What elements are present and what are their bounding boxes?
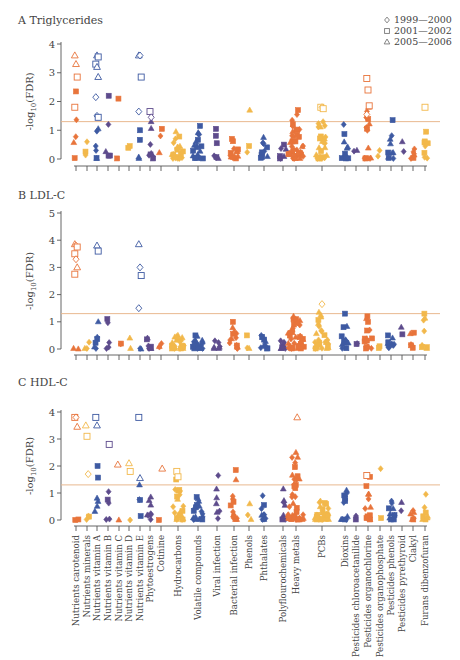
nonsignificant-point-triangle [399,499,405,504]
category-label: Nutrients vitamin B [103,535,113,621]
nonsignificant-point-square [386,333,391,338]
nonsignificant-point-square [93,340,98,345]
nonsignificant-point-diamond [107,516,112,522]
nonsignificant-point-diamond [378,466,383,472]
significant-point-square [72,251,78,257]
nonsignificant-point-triangle [265,153,271,158]
nonsignificant-point-square [73,89,78,94]
nonsignificant-point-triangle [313,152,319,157]
significant-point-square [320,106,326,112]
nonsignificant-point-square [342,132,347,137]
category-label: Nutrients vitamin C [114,535,124,622]
nonsignificant-point-square [343,496,348,501]
significant-point-triangle [94,242,101,248]
significant-point-diamond [136,108,142,115]
y-tick-label: 2 [49,289,55,300]
nonsignificant-point-square [137,128,142,133]
significant-point-diamond [319,301,325,308]
y-tick-label: 4 [49,39,55,50]
significant-point-square [127,468,133,474]
category-label: Nutrients vitamin A [92,534,102,621]
significant-point-triangle [73,61,80,67]
panel-title: A Triglycerides [17,14,103,27]
nonsignificant-point-diamond [73,134,78,140]
nonsignificant-point-square [230,319,235,324]
significant-point-diamond [85,471,91,478]
significant-point-square [147,109,153,115]
significant-point-square [72,104,78,110]
nonsignificant-point-square [156,518,161,523]
significant-point-diamond [137,264,143,271]
panel-c: C HDL-C-log10(FDR)01234 [18,376,440,531]
nonsignificant-point-diamond [376,153,381,159]
nonsignificant-point-square [138,514,143,519]
nonsignificant-point-square [231,139,236,144]
nonsignificant-point-triangle [94,503,100,508]
significant-point-square [95,114,101,120]
nonsignificant-point-square [294,509,299,514]
nonsignificant-point-square [259,150,264,155]
nonsignificant-point-square [138,498,143,503]
nonsignificant-point-square [126,145,131,150]
nonsignificant-point-triangle [247,107,253,112]
y-tick-label: 2 [49,461,55,472]
nonsignificant-point-triangle [127,335,133,340]
nonsignificant-point-square [322,333,327,338]
nonsignificant-point-diamond [423,491,428,497]
nonsignificant-point-square [76,517,81,522]
nonsignificant-point-square [293,139,298,144]
y-tick-label: 0 [49,515,55,526]
nonsignificant-point-square [424,129,429,134]
category-label: Nutrients vitamin E [135,535,145,621]
nonsignificant-point-square [339,334,344,339]
significant-point-square [136,414,142,420]
nonsignificant-point-square [292,465,297,470]
y-axis-label: -log10(FDR) [24,72,38,130]
nonsignificant-point-square [214,141,219,146]
nonsignificant-point-diamond [128,517,133,523]
nonsignificant-point-square [410,345,415,350]
nonsignificant-point-triangle [368,504,374,509]
significant-point-square [365,87,371,93]
nonsignificant-point-diamond [290,454,295,460]
category-label: Volatile compounds [193,535,203,621]
nonsignificant-point-square [376,346,381,351]
significant-point-square [138,273,144,279]
nonsignificant-point-square [236,147,241,152]
nonsignificant-point-triangle [248,516,254,521]
significant-point-square [106,441,112,447]
nonsignificant-point-diamond [245,149,250,155]
category-label: Polyflourochemicals [278,535,288,622]
nonsignificant-point-square [422,150,427,155]
nonsignificant-point-square [94,155,99,160]
significant-point-triangle [126,460,133,466]
nonsignificant-point-diamond [171,504,176,510]
significant-point-triangle [74,423,81,429]
y-tick-label: 1 [49,125,55,136]
significant-point-triangle [114,461,121,467]
significant-point-square [364,76,370,82]
nonsignificant-point-square [296,108,301,113]
nonsignificant-point-square [72,156,77,161]
nonsignificant-point-square [342,311,347,316]
legend-entry: 2001—2002 [394,25,452,36]
nonsignificant-point-square [319,149,324,154]
category-label: Phthalates [259,535,269,581]
nonsignificant-point-square [96,475,101,480]
significant-point-diamond [136,305,142,312]
significant-point-triangle [384,39,390,44]
significant-point-square [72,271,78,277]
nonsignificant-point-triangle [293,449,299,454]
nonsignificant-point-square [213,133,218,138]
nonsignificant-point-diamond [106,489,111,495]
nonsignificant-point-triangle [92,508,98,513]
category-label: Nutrients minerals [82,535,92,618]
nonsignificant-point-triangle [95,319,101,324]
y-tick-label: 1 [49,316,55,327]
nonsignificant-point-square [400,332,405,337]
nonsignificant-point-diamond [106,121,111,127]
category-label: Phenols [244,535,254,569]
nonsignificant-point-triangle [156,150,162,155]
nonsignificant-point-triangle [71,345,77,350]
y-tick-label: 4 [49,407,55,418]
